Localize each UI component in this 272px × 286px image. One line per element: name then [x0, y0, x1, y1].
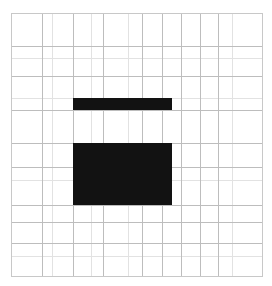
data-cell-lower-block — [73, 143, 172, 205]
data-cell-upper-bar — [73, 98, 172, 110]
grid-plot — [0, 0, 272, 286]
chart-canvas — [0, 0, 272, 286]
